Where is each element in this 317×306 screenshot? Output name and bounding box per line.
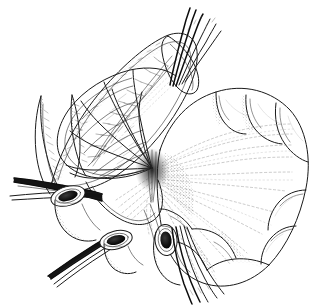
surgical-illustration-svg: Surgical anatomy illustration Pen-and-in… bbox=[0, 0, 317, 306]
illustration-root: Surgical anatomy illustration Pen-and-in… bbox=[0, 0, 317, 306]
